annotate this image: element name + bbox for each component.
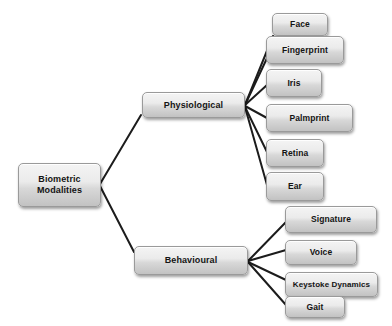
node-face[interactable]: Face	[272, 13, 328, 36]
edge-behavioural-voice	[248, 250, 286, 261]
edge-physiological-fingerprint	[245, 56, 268, 105]
node-voice[interactable]: Voice	[285, 240, 357, 265]
node-fingerprint-label: Fingerprint	[271, 45, 339, 55]
node-face-label: Face	[277, 19, 323, 29]
edge-physiological-palmprint	[245, 106, 267, 118]
node-behavioural-label: Behavioural	[139, 255, 243, 266]
node-physiological[interactable]: Physiological	[142, 92, 245, 118]
node-iris-label: Iris	[271, 78, 317, 88]
node-retina-label: Retina	[271, 148, 319, 158]
node-keystoke-dynamics-label: Keystoke Dynamics	[290, 280, 373, 290]
biometric-modalities-diagram: Biometric Modalities Physiological Behav…	[0, 0, 392, 326]
node-gait[interactable]: Gait	[285, 296, 345, 318]
node-behavioural[interactable]: Behavioural	[134, 246, 248, 275]
node-palmprint[interactable]: Palmprint	[266, 104, 353, 132]
node-ear-label: Ear	[271, 181, 319, 191]
edge-root-physiological	[100, 115, 141, 184]
node-keystoke-dynamics[interactable]: Keystoke Dynamics	[285, 272, 378, 297]
node-iris[interactable]: Iris	[266, 69, 322, 97]
edge-physiological-ear	[245, 107, 267, 185]
node-voice-label: Voice	[290, 247, 352, 257]
edge-root-behavioural	[100, 186, 134, 252]
edge-physiological-retina	[245, 107, 267, 152]
node-signature[interactable]: Signature	[285, 206, 377, 233]
node-palmprint-label: Palmprint	[271, 113, 348, 123]
node-root-biometric-modalities[interactable]: Biometric Modalities	[18, 163, 101, 207]
edge-behavioural-keystoke-dynamics	[248, 262, 286, 280]
node-physiological-label: Physiological	[147, 100, 240, 111]
edge-physiological-iris	[245, 85, 267, 105]
node-ear[interactable]: Ear	[266, 172, 324, 201]
node-root-label: Biometric Modalities	[23, 174, 96, 196]
node-retina[interactable]: Retina	[266, 139, 324, 167]
edge-behavioural-signature	[248, 222, 286, 261]
node-signature-label: Signature	[290, 214, 372, 224]
node-fingerprint[interactable]: Fingerprint	[266, 36, 344, 64]
edge-behavioural-gait	[248, 262, 286, 305]
node-gait-label: Gait	[290, 302, 340, 312]
